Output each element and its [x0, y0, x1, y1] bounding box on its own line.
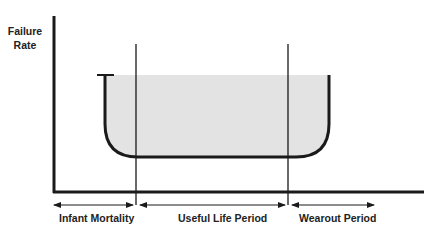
bathtub-fill	[105, 75, 329, 157]
period-label-wearout: Wearout Period	[299, 212, 376, 224]
period-label-infant-mortality: Infant Mortality	[59, 212, 134, 224]
period-label-useful-life: Useful Life Period	[178, 212, 267, 224]
diagram-canvas	[0, 0, 444, 233]
bathtub-curve-diagram: Failure Rate Infant Mortality Useful Lif…	[0, 0, 444, 233]
